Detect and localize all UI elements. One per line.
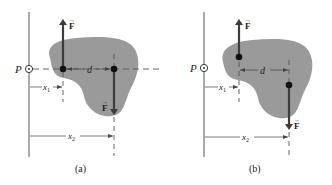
vector-mark: → xyxy=(245,17,251,23)
vector-mark: → xyxy=(69,17,75,23)
x2-sub: 2 xyxy=(246,137,249,143)
dimension-x1-label: x1 xyxy=(42,82,50,93)
dimension-x2-label: x2 xyxy=(67,131,75,142)
couple-moment-diagram: P F → F → d x1 x2 (a) P xyxy=(0,0,332,185)
panel-caption-a: (a) xyxy=(75,163,86,175)
vector-mark: → xyxy=(294,117,300,123)
point-p-label: P xyxy=(189,62,197,74)
panel-b: P F → F → d x1 x2 (b) xyxy=(189,12,312,175)
vector-mark: → xyxy=(102,99,108,105)
dimension-x1-label: x1 xyxy=(218,82,226,93)
dimension-x2-label: x2 xyxy=(241,132,249,143)
x1-sub: 1 xyxy=(223,87,226,93)
point-p-label: P xyxy=(14,63,22,75)
x2-sub: 2 xyxy=(72,136,75,142)
application-point-2 xyxy=(286,82,293,89)
application-point-1 xyxy=(236,54,243,61)
panel-a: P F → F → d x1 x2 (a) xyxy=(14,12,163,175)
panel-caption-b: (b) xyxy=(249,163,261,175)
application-point-2 xyxy=(111,66,118,73)
application-point-1 xyxy=(60,66,67,73)
rigid-body-shape xyxy=(222,39,312,118)
x1-sub: 1 xyxy=(47,87,50,93)
point-p-icon xyxy=(25,65,32,72)
point-p-icon xyxy=(200,64,207,71)
